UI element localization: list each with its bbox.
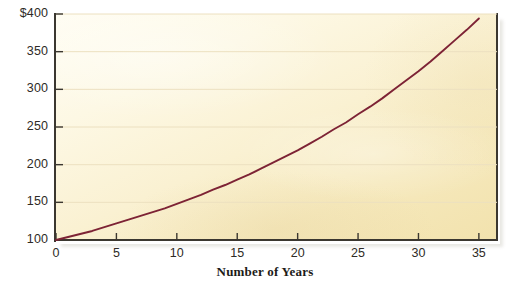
y-tick-label: 150 [4, 194, 48, 208]
x-axis-title: Number of Years [0, 264, 530, 280]
y-tick-label: 300 [4, 81, 48, 95]
y-tick-label: 250 [4, 119, 48, 133]
x-tick-label: 30 [398, 246, 438, 260]
x-axis-line [54, 239, 498, 241]
x-tick-label: 0 [36, 246, 76, 260]
y-tick-label: $400 [4, 6, 48, 20]
y-axis-line [54, 13, 56, 242]
x-tick-label: 20 [278, 246, 318, 260]
x-tick-label: 25 [338, 246, 378, 260]
y-tick-label: 100 [4, 232, 48, 246]
paper-texture [56, 14, 497, 240]
chart-figure: 100150200250300350$400 05101520253035 Nu… [0, 0, 530, 285]
x-tick-label: 15 [217, 246, 257, 260]
x-tick-label: 35 [459, 246, 499, 260]
y-tick-label: 350 [4, 44, 48, 58]
x-tick-label: 5 [96, 246, 136, 260]
plot-right-border [496, 13, 498, 241]
plot-area [56, 14, 497, 240]
y-axis-tick-labels: 100150200250300350$400 [0, 0, 48, 285]
y-tick-label: 200 [4, 157, 48, 171]
x-tick-label: 10 [157, 246, 197, 260]
